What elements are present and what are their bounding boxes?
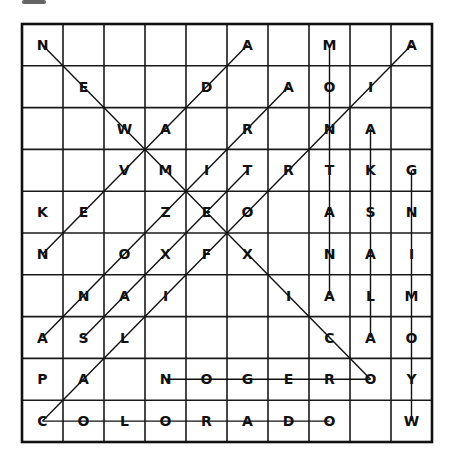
grid-letter: A <box>242 37 253 53</box>
found-word-line <box>84 170 248 337</box>
cropped-heading-fragment <box>22 0 46 4</box>
grid-letter: A <box>283 79 294 95</box>
word-search-grid: NAMAEDAOIWARNAVMITRTKGKEZEOASNNOXFXNAINA… <box>22 24 432 442</box>
grid-letter: P <box>37 371 47 387</box>
grid-letter: T <box>243 162 253 178</box>
grid-letter: K <box>37 204 49 220</box>
grid-letter: A <box>406 37 417 53</box>
word-search-puzzle: NAMAEDAOIWARNAVMITRTKGKEZEOASNNOXFXNAINA… <box>22 24 432 442</box>
